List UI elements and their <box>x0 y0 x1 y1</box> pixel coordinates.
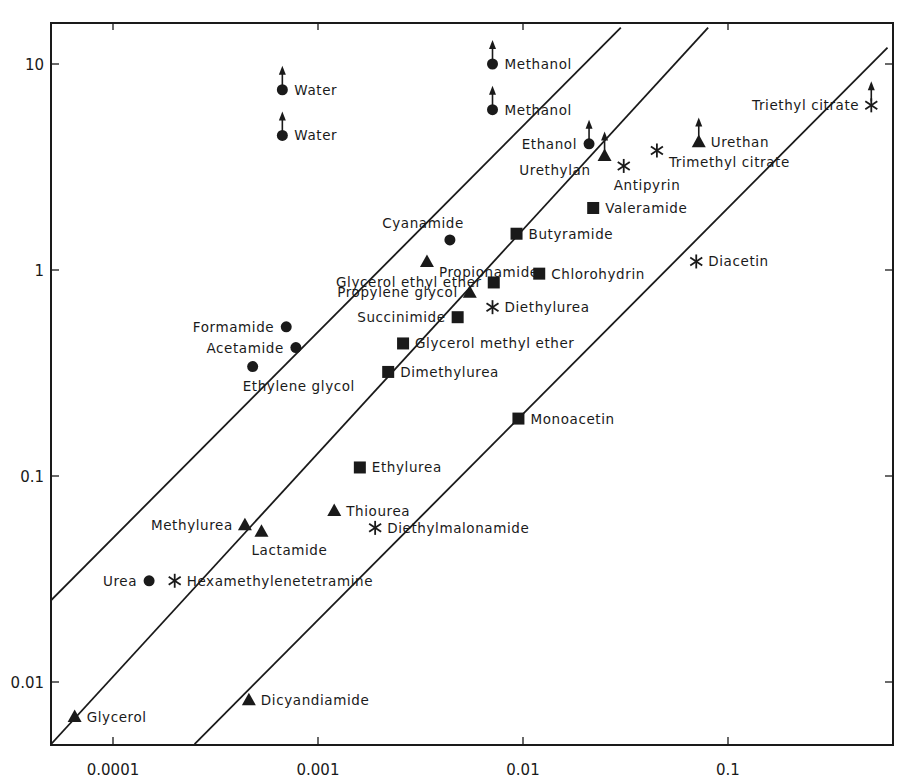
data-point: Ethanol <box>522 120 595 152</box>
arrow-up-icon <box>279 111 286 131</box>
data-point: Triethyl citrate <box>751 81 877 113</box>
data-point: Glycerol methyl ether <box>397 335 574 351</box>
point-label: Monoacetin <box>530 411 614 427</box>
point-label: Diacetin <box>708 253 769 269</box>
point-label: Water <box>294 127 337 143</box>
square-marker-icon <box>587 202 599 214</box>
arrow-up-icon <box>489 40 496 60</box>
point-label: Triethyl citrate <box>751 97 859 113</box>
circle-marker-icon <box>247 361 258 372</box>
data-point: Diacetin <box>690 253 769 269</box>
point-label: Methanol <box>505 56 572 72</box>
data-point: Chlorohydrin <box>533 266 645 282</box>
point-label: Glycerol methyl ether <box>415 335 574 351</box>
point-label: Urea <box>103 573 137 589</box>
data-point: Methanol <box>487 40 572 72</box>
circle-marker-icon <box>487 104 498 115</box>
square-marker-icon <box>382 366 394 378</box>
triangle-marker-icon <box>254 524 268 537</box>
point-label: Water <box>294 82 337 98</box>
point-label: Acetamide <box>206 340 283 356</box>
point-label: Hexamethylenetetramine <box>187 573 373 589</box>
data-point: Ethylene glycol <box>243 361 355 394</box>
y-tick-label: 0.1 <box>20 468 44 486</box>
square-marker-icon <box>452 311 464 323</box>
triangle-marker-icon <box>598 148 612 161</box>
point-label: Methanol <box>505 102 572 118</box>
triangle-marker-icon <box>238 518 252 531</box>
point-label: Formamide <box>193 319 274 335</box>
point-label: Dimethylurea <box>400 364 499 380</box>
triangle-marker-icon <box>327 504 341 517</box>
arrow-up-icon <box>279 66 286 86</box>
point-label: Succinimide <box>357 309 445 325</box>
point-label: Ethylurea <box>372 459 442 475</box>
data-points: WaterWaterMethanolMethanolEthanolUrethyl… <box>68 40 878 725</box>
point-label: Dicyandiamide <box>261 692 370 708</box>
data-point: Cyanamide <box>382 215 464 246</box>
triangle-marker-icon <box>68 710 82 723</box>
circle-marker-icon <box>487 59 498 70</box>
point-label: Glycerol <box>87 709 147 725</box>
asterisk-marker-icon <box>487 300 499 314</box>
data-point: Diethylurea <box>487 299 590 315</box>
data-point: Acetamide <box>206 340 301 356</box>
square-marker-icon <box>512 413 524 425</box>
data-point: Urea <box>103 573 155 589</box>
square-marker-icon <box>533 268 545 280</box>
circle-marker-icon <box>290 342 301 353</box>
circle-marker-icon <box>277 130 288 141</box>
data-point: Urethan <box>692 118 769 150</box>
arrow-up-icon <box>586 120 593 140</box>
data-point: Thiourea <box>327 503 410 519</box>
data-point: Water <box>277 66 337 98</box>
x-tick-label: 0.1 <box>716 761 740 779</box>
circle-marker-icon <box>144 575 155 586</box>
data-point: Dicyandiamide <box>242 692 370 708</box>
circle-marker-icon <box>277 84 288 95</box>
asterisk-marker-icon <box>618 159 630 173</box>
circle-marker-icon <box>281 321 292 332</box>
data-point: Hexamethylenetetramine <box>169 573 373 589</box>
point-label: Urethylan <box>519 162 590 178</box>
data-point: Valeramide <box>587 200 687 216</box>
square-marker-icon <box>397 337 409 349</box>
asterisk-marker-icon <box>865 98 877 112</box>
plot-frame <box>51 23 893 745</box>
point-label: Valeramide <box>605 200 687 216</box>
data-point: Glycerol <box>68 709 147 725</box>
point-label: Diethylurea <box>505 299 590 315</box>
data-point: Dimethylurea <box>382 364 499 380</box>
point-label: Cyanamide <box>382 215 464 231</box>
square-marker-icon <box>354 461 366 473</box>
point-label: Ethanol <box>522 136 577 152</box>
x-tick-label: 0.0001 <box>87 761 140 779</box>
asterisk-marker-icon <box>651 144 663 158</box>
circle-marker-icon <box>444 234 455 245</box>
square-marker-icon <box>488 276 500 288</box>
data-point: Diethylmalonamide <box>369 520 529 536</box>
data-point: Propylene glycol <box>337 284 477 300</box>
asterisk-marker-icon <box>369 521 381 535</box>
data-point: Lactamide <box>251 524 327 558</box>
point-label: Ethylene glycol <box>243 378 355 394</box>
data-point: Water <box>277 111 337 143</box>
point-label: Diethylmalonamide <box>387 520 529 536</box>
x-tick-label: 0.001 <box>297 761 340 779</box>
triangle-marker-icon <box>692 135 706 148</box>
square-marker-icon <box>511 228 523 240</box>
diagonal-line-2 <box>51 28 708 744</box>
diagonal-line-3 <box>195 48 888 744</box>
point-label: Trimethyl citrate <box>668 154 790 170</box>
triangle-marker-icon <box>420 254 434 267</box>
asterisk-marker-icon <box>690 254 702 268</box>
arrow-up-icon <box>489 86 496 106</box>
y-tick-label: 10 <box>25 56 44 74</box>
circle-marker-icon <box>584 138 595 149</box>
y-tick-label: 0.01 <box>11 674 44 692</box>
data-point: Butyramide <box>511 226 614 242</box>
plot-border <box>51 23 893 745</box>
point-label: Methylurea <box>151 517 233 533</box>
x-tick-label: 0.01 <box>506 761 539 779</box>
point-label: Propylene glycol <box>337 284 458 300</box>
